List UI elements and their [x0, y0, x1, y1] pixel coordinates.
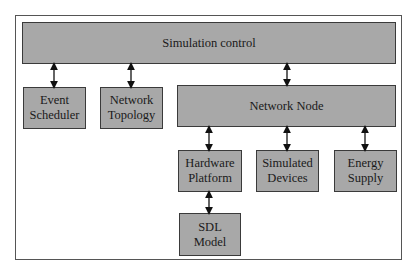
connector-layer	[0, 0, 417, 277]
